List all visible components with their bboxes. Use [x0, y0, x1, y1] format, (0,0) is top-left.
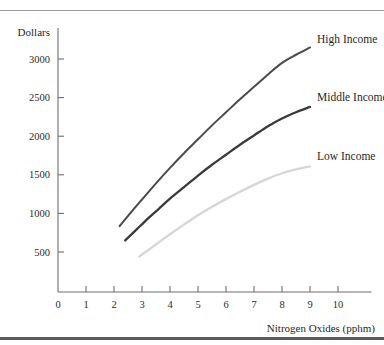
y-tick-label: 1500 — [29, 169, 50, 180]
x-tick-label: 5 — [195, 299, 200, 310]
x-tick-label: 10 — [333, 299, 344, 310]
x-tick-label: 6 — [223, 299, 228, 310]
chart-figure: 50010001500200025003000012345678910 High… — [0, 10, 384, 337]
bottom-divider — [0, 337, 384, 340]
x-axis-title: Nitrogen Oxides (pphm) — [267, 322, 375, 335]
x-tick-label: 3 — [139, 299, 144, 310]
x-tick-label: 8 — [279, 299, 284, 310]
x-tick-label: 7 — [251, 299, 256, 310]
series-label-low-income: Low Income — [317, 150, 375, 162]
x-tick-label: 1 — [83, 299, 88, 310]
series-label-high-income: High Income — [317, 33, 377, 46]
series-line-low-income — [139, 166, 310, 256]
chart-page: 50010001500200025003000012345678910 High… — [0, 0, 384, 345]
y-tick-label: 2000 — [29, 131, 50, 142]
x-tick-label: 4 — [167, 299, 173, 310]
axis-titles-group: DollarsNitrogen Oxides (pphm) — [18, 26, 376, 335]
x-tick-label: 2 — [111, 299, 116, 310]
y-tick-label: 2500 — [29, 92, 50, 103]
x-tick-label: 9 — [307, 299, 312, 310]
y-tick-label: 1000 — [29, 208, 50, 219]
y-axis-title: Dollars — [18, 26, 50, 38]
chart-svg: 50010001500200025003000012345678910 High… — [0, 10, 384, 337]
tick-labels-group: 50010001500200025003000012345678910 — [29, 54, 343, 310]
series-labels-group: High IncomeMiddle IncomeLow Income — [317, 33, 384, 162]
series-label-middle-income: Middle Income — [317, 91, 384, 103]
y-tick-label: 500 — [34, 247, 50, 258]
x-tick-label: 0 — [55, 299, 60, 310]
series-line-high-income — [120, 47, 310, 226]
y-tick-label: 3000 — [29, 54, 50, 65]
series-group — [120, 47, 310, 256]
